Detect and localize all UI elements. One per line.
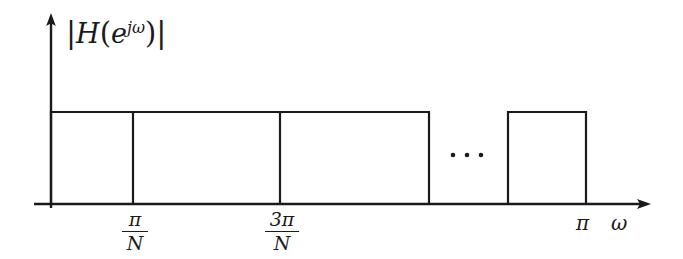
x-axis-label-omega: ω xyxy=(611,213,627,233)
y-axis-label-close-bar: | xyxy=(156,15,166,50)
y-axis-label-close-paren: ) xyxy=(145,16,156,50)
x-tick-label-3pi-over-n-numerator: 3π xyxy=(265,210,299,231)
band-outline-contiguous xyxy=(51,112,429,204)
x-tick-label-pi-over-n-numerator: π xyxy=(122,210,148,231)
x-axis xyxy=(34,199,651,209)
y-axis-label-open-paren: ( xyxy=(100,16,111,50)
magnitude-response-figure: |H(ejω)| π N 3π N π ω xyxy=(0,0,683,259)
x-tick-label-pi-over-n-denominator: N xyxy=(122,231,148,254)
y-axis-label-exponent: jω xyxy=(127,18,145,37)
y-axis-label-e: e xyxy=(111,18,127,49)
band-last xyxy=(508,112,586,204)
y-axis-label-open-bar: | xyxy=(66,15,76,50)
y-axis-label: |H(ejω)| xyxy=(66,18,166,48)
x-tick-label-pi: π xyxy=(576,213,589,233)
y-axis-label-h: H xyxy=(76,18,100,49)
ellipsis-dots xyxy=(451,153,484,158)
x-tick-label-3pi-over-n: 3π N xyxy=(265,210,299,254)
x-tick-label-3pi-over-n-denominator: N xyxy=(265,231,299,254)
x-tick-label-pi-over-n: π N xyxy=(122,210,148,254)
passband-group xyxy=(51,112,429,204)
